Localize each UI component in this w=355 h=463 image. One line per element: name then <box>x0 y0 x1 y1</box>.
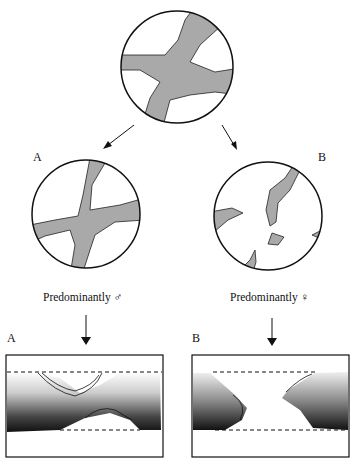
arrow-to-b-icon <box>222 125 237 150</box>
bottom-b-label: B <box>192 331 200 346</box>
panel-a-label: A <box>33 150 42 165</box>
cross-section-b <box>192 355 349 457</box>
trabecular-network-normal <box>110 5 240 130</box>
panel-b-caption: Predominantly ♀ <box>230 291 309 303</box>
diagram-canvas <box>0 0 355 463</box>
arrow-to-a-icon <box>103 125 134 149</box>
cross-section-a <box>6 355 163 457</box>
arrow-down-a-icon <box>81 315 91 345</box>
trabecular-network-a <box>30 158 145 275</box>
bottom-a-label: A <box>7 331 16 346</box>
arrow-down-b-icon <box>267 318 277 346</box>
panel-a-caption: Predominantly ♂ <box>43 291 122 303</box>
panel-b-label: B <box>318 150 326 165</box>
trabecular-network-b <box>210 162 330 282</box>
